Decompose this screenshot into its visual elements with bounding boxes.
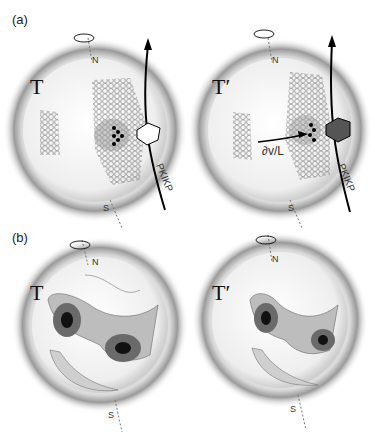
panel-a-right-sphere (188, 30, 372, 228)
panel-b-right-sphere (192, 232, 368, 430)
north-a-left: N (92, 55, 99, 65)
panel-a-right-title: T′ (212, 74, 230, 100)
panel-b-right-title: T′ (212, 280, 230, 306)
panel-b-left-sphere (12, 237, 188, 432)
north-a-right: N (272, 55, 279, 65)
north-b-left: N (92, 257, 99, 267)
panel-a-left-title: T (30, 74, 43, 100)
panel-b-label: (b) (12, 230, 28, 245)
panel-b-left-title: T (30, 280, 43, 306)
north-b-right: N (272, 254, 279, 264)
south-a-left: S (103, 203, 109, 213)
south-a-right: S (288, 203, 294, 213)
south-b-right: S (290, 404, 296, 414)
figure-canvas (0, 0, 375, 446)
panel-a-label: (a) (12, 12, 28, 27)
velocity-gradient-label: ∂v/L (262, 144, 284, 158)
south-b-left: S (108, 410, 114, 420)
